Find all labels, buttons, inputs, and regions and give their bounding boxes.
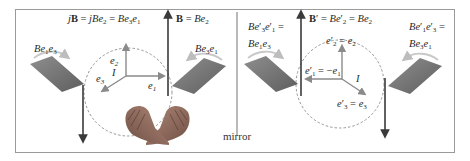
label-plane-e1e3-eq: Be1e3 <box>248 38 271 51</box>
label-plane-e1pe3p: Be′1e′3 = <box>409 21 445 34</box>
label-plane-e3e1-eq: Be3e1 <box>409 38 432 51</box>
mirror-symmetry-diagram: jB = jBe2 = Be3e1 B = Be2 Be1e3 Be3e1 e2… <box>0 0 470 161</box>
label-e3p: e′3 = e3 <box>337 98 367 111</box>
label-e3: e3 <box>96 73 105 86</box>
e3p-axis-arrow <box>342 79 363 93</box>
e3-axis-arrow <box>104 76 126 90</box>
plane-left-e1e3 <box>30 52 84 92</box>
label-e2p: e′2 = e2 <box>326 35 356 48</box>
label-jB: jB = jBe2 = Be3e1 <box>66 13 141 26</box>
label-e1: e1 <box>148 80 156 93</box>
label-plane-e3pe1p: Be′3e′1 = <box>248 21 284 34</box>
label-e1p: e′1 = −e1 <box>305 65 341 78</box>
label-I-right: I <box>355 73 360 84</box>
label-I: I <box>111 67 116 78</box>
plane-right-right-e1e3 <box>388 54 442 94</box>
dashed-circle-right <box>296 40 384 128</box>
plane-right-left-e3e1 <box>244 52 298 92</box>
mirror-label: mirror <box>223 130 251 142</box>
label-Bprime: B′ = Be′2 = Be2 <box>309 13 373 26</box>
plane-right-e3e1 <box>172 54 226 94</box>
label-B: B = Be2 <box>176 13 209 26</box>
label-plane-e1e3: Be1e3 <box>34 43 57 56</box>
